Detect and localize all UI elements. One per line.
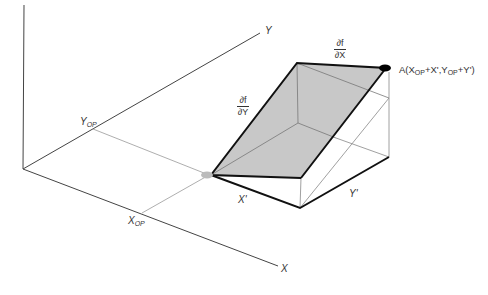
vertical-axis bbox=[23, 5, 24, 169]
yop-label: YOP bbox=[80, 117, 97, 128]
diagram-canvas bbox=[0, 0, 488, 295]
y-prime-label: Y' bbox=[349, 189, 358, 199]
operating-point-marker bbox=[201, 172, 213, 179]
box-front-vertical bbox=[300, 178, 301, 208]
point-a-label: A(XOP+X',YOP+Y') bbox=[399, 65, 475, 76]
df-dy-label: ∂f∂Y bbox=[237, 96, 249, 117]
yop-projection-line bbox=[93, 129, 209, 175]
df-dx-label: ∂f∂X bbox=[334, 39, 346, 60]
xop-label: XOP bbox=[128, 216, 145, 227]
y-axis-label: Y bbox=[265, 26, 272, 36]
x-axis bbox=[23, 169, 278, 266]
point-a-marker bbox=[379, 65, 391, 72]
x-prime-label: X' bbox=[238, 195, 247, 205]
tangent-plane bbox=[211, 63, 386, 178]
xop-projection-line bbox=[142, 175, 209, 213]
x-axis-label: X bbox=[281, 264, 288, 274]
